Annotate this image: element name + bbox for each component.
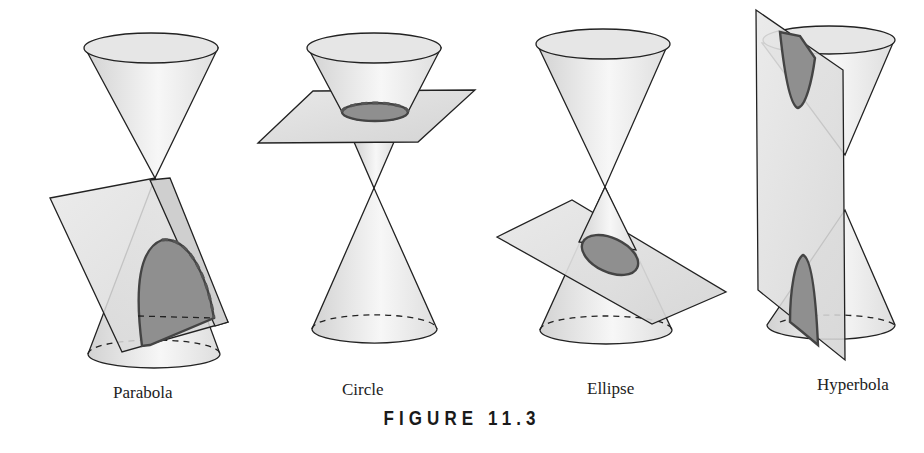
upper-nappe	[85, 48, 218, 178]
caption-circle: Circle	[342, 380, 384, 400]
parabola-diagram	[50, 33, 228, 368]
circle-diagram	[258, 33, 475, 343]
ellipse-diagram	[497, 29, 726, 344]
upper-nappe	[537, 44, 668, 187]
caption-ellipse: Ellipse	[587, 379, 634, 399]
caption-hyperbola: Hyperbola	[817, 375, 889, 395]
caption-parabola: Parabola	[113, 383, 172, 403]
figure-title: FIGURE 11.3	[69, 407, 854, 430]
lower-nappe	[312, 188, 437, 343]
hyperbola-diagram	[756, 10, 895, 360]
